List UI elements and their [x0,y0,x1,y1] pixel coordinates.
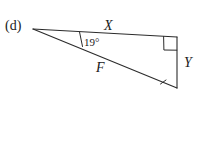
side-label-x: X [104,19,113,33]
figure-canvas: (d) X F Y 19° [0,0,202,157]
part-label: (d) [5,19,21,33]
triangle-diagram [0,0,202,157]
side-f-line [33,29,177,88]
angle-marker-line [80,32,83,47]
side-label-f: F [96,61,105,75]
right-angle-marker [164,36,178,50]
side-label-y: Y [184,56,192,70]
angle-label: 19° [84,37,99,48]
